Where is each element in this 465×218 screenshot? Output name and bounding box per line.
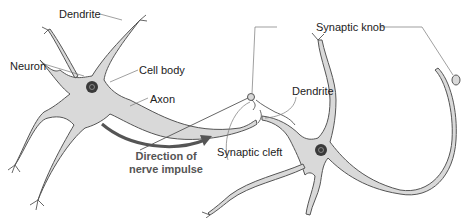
- label-synaptic-cleft: Synaptic cleft: [217, 146, 282, 158]
- leader-cell-body: [110, 70, 138, 82]
- neuron-illustration: [0, 0, 465, 218]
- label-cell-body: Cell body: [139, 64, 185, 76]
- label-dendrite-top: Dendrite: [59, 8, 101, 20]
- right-dendrite-lower-left: [208, 164, 305, 215]
- synaptic-knob-right: [452, 75, 460, 85]
- left-nucleus: [86, 81, 98, 93]
- leader-dendrite-top: [100, 14, 122, 20]
- label-neuron: Neuron: [10, 60, 46, 72]
- leader-synaptic-knob: [252, 27, 453, 94]
- neuron-diagram: Dendrite Neuron Cell body Axon Synaptic …: [0, 0, 465, 218]
- right-cell-body: [262, 40, 456, 215]
- direction-line-1: Direction of: [118, 150, 214, 163]
- direction-line-2: nerve impulse: [118, 163, 214, 176]
- synaptic-knob-left: [248, 94, 255, 101]
- label-axon: Axon: [150, 93, 175, 105]
- label-direction-of-impulse: Direction of nerve impulse: [118, 150, 214, 176]
- label-synaptic-knob: Synaptic knob: [316, 21, 385, 33]
- right-nucleus: [315, 144, 327, 156]
- leader-dendrite-right: [265, 97, 296, 118]
- label-dendrite-right: Dendrite: [292, 85, 334, 97]
